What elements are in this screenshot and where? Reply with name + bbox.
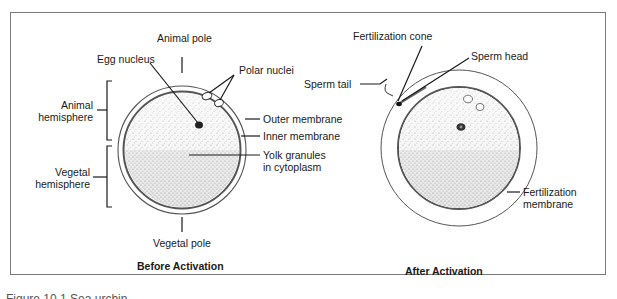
label-vegetal-hemisphere-line1: Vegetal xyxy=(55,166,90,178)
label-polar-nuclei: Polar nuclei xyxy=(239,64,294,76)
label-fertilization-membrane: Fertilization membrane xyxy=(523,186,577,210)
label-animal-hemisphere-line2: hemisphere xyxy=(38,111,93,123)
label-animal-hemisphere: Animal hemisphere xyxy=(33,99,93,123)
label-yolk-line1: Yolk granules xyxy=(263,149,326,161)
polar-body-2 xyxy=(476,103,484,110)
label-yolk-line2: in cytoplasm xyxy=(263,161,321,173)
label-inner-membrane: Inner membrane xyxy=(263,130,340,142)
label-fertilization-cone: Fertilization cone xyxy=(353,30,432,42)
polar-body-1 xyxy=(464,95,473,103)
sperm-head xyxy=(396,102,402,106)
title-after-activation: After Activation xyxy=(405,265,483,277)
title-before-activation: Before Activation xyxy=(137,260,224,272)
label-egg-nucleus: Egg nucleus xyxy=(97,53,155,65)
egg-after-activation xyxy=(381,70,537,226)
label-fert-membrane-line2: membrane xyxy=(523,198,573,210)
label-yolk-granules: Yolk granules in cytoplasm xyxy=(263,149,326,173)
egg-nucleus xyxy=(195,122,203,129)
figure-caption: Figure 10.1 Sea urchin xyxy=(6,289,127,299)
label-sperm-head: Sperm head xyxy=(471,50,528,62)
label-sperm-tail: Sperm tail xyxy=(304,78,351,90)
sperm-tail xyxy=(385,84,393,96)
label-vegetal-hemisphere: Vegetal hemisphere xyxy=(30,166,90,190)
label-vegetal-pole: Vegetal pole xyxy=(153,237,211,249)
label-vegetal-hemisphere-line2: hemisphere xyxy=(35,178,90,190)
label-fert-membrane-line1: Fertilization xyxy=(523,186,577,198)
label-animal-hemisphere-line1: Animal xyxy=(61,99,93,111)
label-animal-pole: Animal pole xyxy=(157,32,212,44)
label-outer-membrane: Outer membrane xyxy=(263,113,342,125)
